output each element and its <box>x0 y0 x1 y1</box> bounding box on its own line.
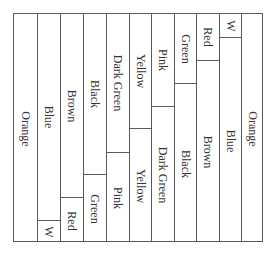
cell-label: Pink <box>157 49 169 71</box>
strip-column-5: Dark GreenPink <box>106 14 129 241</box>
cell-label: Yellow <box>135 54 147 88</box>
cell-label: Green <box>180 34 192 63</box>
cell-label: Red <box>66 211 78 230</box>
strip-column-4: BlackGreen <box>83 14 106 241</box>
strip-cell: Orange <box>242 14 263 243</box>
cell-label: Yellow <box>135 169 147 203</box>
strip-cell: Pink <box>107 152 129 243</box>
cell-label: Brown <box>202 136 214 169</box>
strip-column-1: Orange <box>14 14 37 241</box>
cell-label: Black <box>89 80 101 108</box>
cell-label: Pink <box>112 187 124 209</box>
strip-cell: Black <box>84 14 106 174</box>
strip-cell: Green <box>84 174 106 243</box>
cell-label: Green <box>89 194 101 223</box>
strip-cell: Black <box>175 83 196 243</box>
strip-column-2: BlueW <box>37 14 60 241</box>
cell-label: W <box>225 20 237 31</box>
color-strip-diagram: OrangeBlueWBrownRedBlackGreenDark GreenP… <box>13 13 263 242</box>
cell-label: Dark Green <box>112 55 124 111</box>
strip-cell: Brown <box>197 60 219 243</box>
strip-cell: Red <box>61 197 83 243</box>
cell-label: Brown <box>66 89 78 122</box>
cell-label: Red <box>202 27 214 46</box>
strip-cell: Blue <box>220 37 241 243</box>
strip-column-6: YellowYellow <box>129 14 151 241</box>
strip-cell: Red <box>197 14 219 60</box>
strip-cell: Pink <box>152 14 174 106</box>
cell-label: Black <box>180 150 192 178</box>
strip-cell: Green <box>175 14 196 83</box>
strip-cell: W <box>220 14 241 37</box>
strip-column-8: GreenBlack <box>174 14 196 241</box>
strip-cell: Blue <box>38 14 60 220</box>
strip-cell: W <box>38 220 60 243</box>
cell-label: Dark Green <box>157 147 169 203</box>
strip-cell: Yellow <box>130 14 151 128</box>
cell-label: W <box>43 226 55 237</box>
cell-label: Orange <box>247 111 259 146</box>
strip-column-10: WBlue <box>219 14 241 241</box>
strip-column-9: RedBrown <box>196 14 219 241</box>
cell-label: Blue <box>225 129 237 152</box>
strip-cell: Brown <box>61 14 83 197</box>
strip-cell: Dark Green <box>152 106 174 243</box>
strip-cell: Orange <box>14 14 37 243</box>
strip-cell: Dark Green <box>107 14 129 152</box>
strip-column-7: PinkDark Green <box>151 14 174 241</box>
cell-label: Orange <box>20 111 32 146</box>
strip-column-11: Orange <box>241 14 263 241</box>
cell-label: Blue <box>43 106 55 129</box>
strip-column-3: BrownRed <box>60 14 83 241</box>
strip-cell: Yellow <box>130 128 151 243</box>
